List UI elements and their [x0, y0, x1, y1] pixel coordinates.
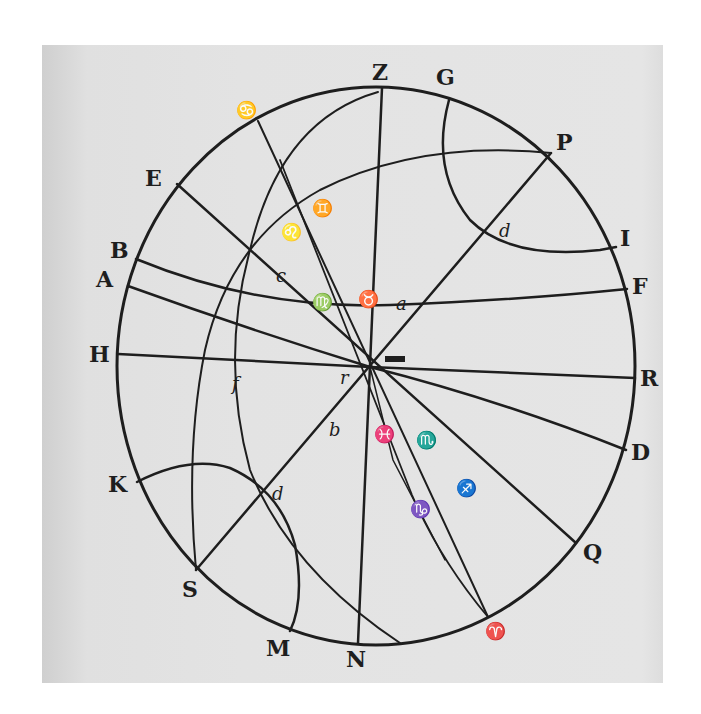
label-aries: ♈ — [485, 621, 506, 641]
label-n: N — [346, 646, 366, 672]
label-d-lower: d — [272, 483, 284, 504]
label-virgo: ♍ — [312, 292, 333, 312]
label-p: P — [556, 129, 573, 155]
label-c: c — [276, 265, 286, 286]
label-f: F — [632, 273, 648, 299]
label-q: Q — [583, 539, 602, 565]
label-pisces: ♓ — [374, 424, 395, 444]
label-k: K — [108, 471, 128, 497]
label-a-inner: a — [396, 293, 407, 314]
label-gemini: ♊ — [312, 198, 333, 218]
label-cancer: ♋ — [236, 100, 257, 120]
label-m: M — [266, 635, 290, 661]
label-b: B — [110, 237, 129, 263]
curve-b-f — [136, 259, 627, 305]
label-g: G — [436, 64, 455, 90]
libra-mark — [385, 356, 405, 362]
sphere-diagram: Z G P I F R D Q ♈ N M S K H A B E ♋ d a … — [0, 0, 701, 714]
label-taurus: ♉ — [358, 289, 379, 309]
label-r-inner: r — [340, 367, 350, 388]
label-i: I — [620, 225, 630, 251]
label-a: A — [95, 266, 114, 292]
label-e: E — [145, 165, 162, 191]
curve-center-d — [370, 367, 626, 450]
label-f-inner: f — [230, 373, 242, 394]
line-pisces — [370, 367, 445, 560]
label-s: S — [182, 576, 198, 602]
label-scorpio: ♏ — [416, 430, 437, 450]
label-z: Z — [372, 59, 388, 85]
label-capricorn: ♑ — [410, 499, 431, 519]
label-leo: ♌ — [281, 222, 302, 242]
label-d: D — [631, 439, 650, 465]
label-d-upper: d — [499, 220, 511, 241]
label-b-inner: b — [329, 419, 341, 440]
label-r: R — [640, 365, 659, 391]
label-h: H — [89, 341, 110, 367]
label-sagittarius: ♐ — [456, 478, 477, 498]
arc-g-i — [443, 100, 616, 252]
